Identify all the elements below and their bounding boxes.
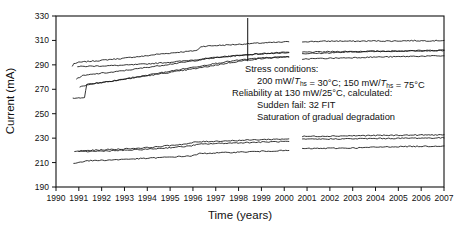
data-trace (79, 141, 289, 152)
annotation-line-3: Reliability at 130 mW/25°C, calculated: (232, 88, 392, 98)
x-tick-label: 1990 (47, 193, 66, 203)
y-tick-label: 330 (35, 11, 49, 21)
y-tick-label: 250 (35, 109, 49, 119)
x-tick-label: 2003 (343, 193, 362, 203)
axis-ticks: 1902102302502702903103301990199119921993… (35, 11, 454, 203)
data-trace (302, 40, 444, 42)
chart-figure: 1902102302502702903103301990199119921993… (0, 0, 458, 233)
x-tick-label: 2006 (412, 193, 431, 203)
y-axis-title: Current (mA) (4, 68, 16, 135)
annotation-line-1: Stress conditions: (245, 64, 318, 74)
x-tick-label: 2002 (320, 193, 339, 203)
data-trace (302, 137, 444, 139)
x-tick-label: 2004 (366, 193, 385, 203)
x-tick-label: 1993 (115, 193, 134, 203)
y-tick-label: 290 (35, 60, 49, 70)
y-tick-label: 270 (35, 84, 49, 94)
y-tick-label: 190 (35, 182, 49, 192)
x-tick-label: 2005 (389, 193, 408, 203)
plot-frame (56, 16, 444, 187)
annotation-line-4: Sudden fail: 32 FIT (257, 100, 336, 110)
data-trace (302, 56, 444, 60)
data-trace (302, 135, 444, 137)
data-trace (74, 150, 289, 163)
x-tick-label: 1998 (229, 193, 248, 203)
x-tick-label: 1997 (206, 193, 225, 203)
data-trace (302, 146, 444, 149)
x-tick-label: 1995 (161, 193, 180, 203)
y-tick-label: 210 (35, 158, 49, 168)
annotation-block: Stress conditions:200 mW/Ths = 30°C; 150… (232, 64, 425, 122)
y-tick-label: 310 (35, 35, 49, 45)
x-tick-label: 2007 (435, 193, 454, 203)
x-axis-title: Time (years) (208, 209, 272, 221)
y-tick-label: 230 (35, 133, 49, 143)
x-tick-label: 1999 (252, 193, 271, 203)
x-tick-label: 1994 (138, 193, 157, 203)
annotation-line-5: Saturation of gradual degradation (257, 112, 395, 122)
x-tick-label: 2001 (298, 193, 317, 203)
reliability-current-vs-time-chart: 1902102302502702903103301990199119921993… (0, 0, 458, 233)
x-tick-label: 2000 (275, 193, 294, 203)
x-tick-label: 1991 (69, 193, 88, 203)
x-tick-label: 1996 (183, 193, 202, 203)
data-trace (75, 139, 289, 152)
x-tick-label: 1992 (92, 193, 111, 203)
